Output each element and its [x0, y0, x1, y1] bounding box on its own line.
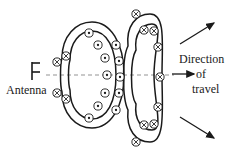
circle-cross-icon [150, 120, 158, 128]
antenna-label: Antenna [6, 84, 47, 97]
circle-dot-icon [115, 57, 123, 65]
circle-dot-icon [101, 89, 109, 97]
circle-dot-icon [103, 71, 111, 79]
circle-cross-icon [154, 43, 162, 51]
circle-cross-icon [132, 10, 140, 18]
circle-cross-icon [62, 52, 70, 60]
circle-dot-icon [85, 29, 93, 37]
dipole-antenna-icon [32, 62, 40, 80]
circle-dot-icon [116, 73, 124, 81]
circle-dot-icon [94, 102, 102, 110]
direction-label-line1: Direction [179, 53, 224, 66]
upper-ray-arrow [180, 23, 214, 44]
circle-dot-icon [112, 106, 120, 114]
circle-cross-icon [53, 58, 61, 66]
circle-cross-icon [154, 103, 162, 111]
direction-label-line3: travel [192, 83, 219, 96]
circle-cross-icon [62, 95, 70, 103]
circle-cross-icon [150, 27, 158, 35]
circle-dot-icon [101, 54, 109, 62]
figure-canvas: Antenna Direction of travel [0, 0, 230, 159]
outer-loop-inner-contour [132, 24, 158, 130]
circle-dot-icon [115, 89, 123, 97]
circle-dot-icon [85, 114, 93, 122]
circle-cross-icon [132, 138, 140, 146]
circle-cross-icon [140, 121, 148, 129]
circle-cross-icon [156, 73, 164, 81]
direction-label-line2: of [196, 68, 206, 81]
field-symbol-group [53, 10, 164, 146]
circle-cross-icon [140, 26, 148, 34]
lower-ray-arrow [180, 117, 214, 138]
circle-dot-icon [94, 41, 102, 49]
circle-cross-icon [53, 89, 61, 97]
circle-dot-icon [112, 41, 120, 49]
